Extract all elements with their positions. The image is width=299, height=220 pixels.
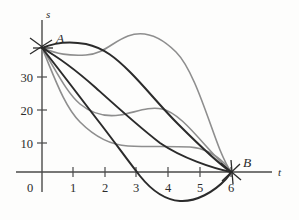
chart-figure: s t 30 20 10 0 1 2 3 4 5 6 A B bbox=[0, 0, 299, 220]
x-axis-label: t bbox=[278, 166, 282, 178]
y-tick-label-10: 10 bbox=[21, 137, 34, 151]
axes-group bbox=[16, 20, 272, 192]
x-tick-label-5: 5 bbox=[197, 181, 203, 195]
x-tick-label-6: 6 bbox=[228, 181, 234, 195]
plot-canvas: s t 30 20 10 0 1 2 3 4 5 6 A B bbox=[0, 0, 299, 220]
curve-shallow-top-dark bbox=[42, 42, 231, 172]
y-tick-label-30: 30 bbox=[21, 71, 34, 85]
x-tick-label-4: 4 bbox=[165, 181, 172, 195]
y-tick-label-20: 20 bbox=[21, 104, 34, 118]
x-tick-label-0: 0 bbox=[27, 181, 33, 195]
x-tick-label-2: 2 bbox=[102, 181, 108, 195]
x-tick-label-3: 3 bbox=[133, 181, 139, 195]
point-label-A: A bbox=[55, 31, 65, 46]
point-label-B: B bbox=[243, 155, 251, 170]
curve-upper-hump-gray bbox=[42, 34, 231, 172]
x-tick-label-1: 1 bbox=[70, 181, 76, 195]
y-axis-label: s bbox=[46, 8, 50, 20]
